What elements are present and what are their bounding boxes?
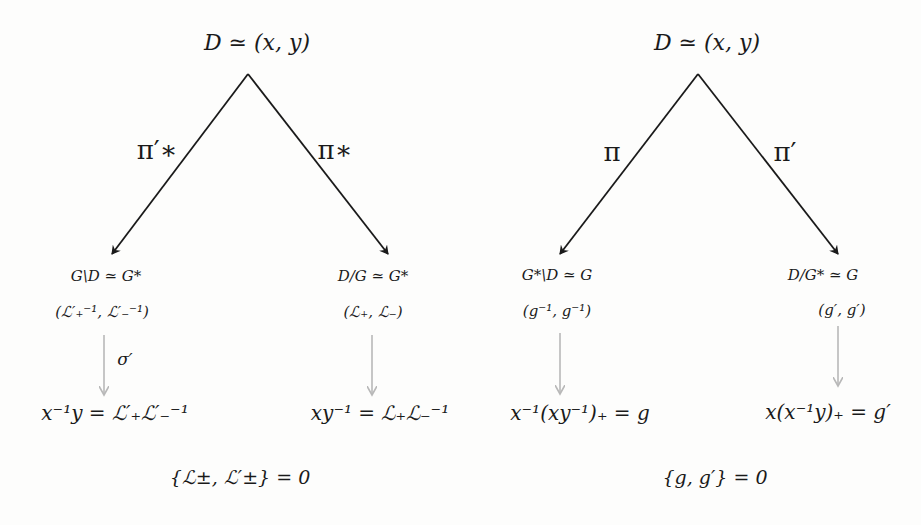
sigma-prime-label: σ′ [117,351,132,368]
right-left-node-quotient: G*\D ≃ G [522,268,593,283]
left-node-pair: (ℒ′₊⁻¹, ℒ′₋⁻¹) [55,305,149,320]
right-node-pair: (ℒ₊, ℒ₋) [343,305,402,320]
left-arrow-label-pi-prime-star: π′∗ [137,137,178,163]
arrow-layer [0,0,921,525]
left-pi-prime-star-arrow [112,74,248,254]
left-top-node: D ≃ (x, y) [204,32,310,54]
right-pi-arrow [560,74,698,254]
left-result-equation: x⁻¹y = ℒ′₊ℒ′₋⁻¹ [41,403,188,423]
right-right-result-equation: x(x⁻¹y)₊ = g′ [765,402,890,422]
right-poisson-bracket: {g, g′} = 0 [663,468,768,487]
right-arrow-label-pi-prime: π′ [774,139,797,165]
right-right-node-quotient: D/G* ≃ G [788,268,859,283]
right-node-quotient: D/G ≃ G* [338,269,409,284]
right-left-result-equation: x⁻¹(xy⁻¹)₊ = g [510,403,649,423]
right-top-node: D ≃ (x, y) [654,32,760,54]
right-right-node-pair: (g′, g′) [818,303,865,318]
left-poisson-bracket: {ℒ±, ℒ′±} = 0 [170,468,311,487]
left-node-quotient: G\D ≃ G* [71,269,142,284]
right-arrow-label-pi-star: π∗ [318,137,353,163]
right-pi-prime-arrow [698,74,838,254]
right-result-equation: xy⁻¹ = ℒ₊ℒ₋⁻¹ [311,403,449,423]
right-left-node-pair: (g⁻¹, g⁻¹) [523,304,591,319]
right-arrow-label-pi: π [603,139,620,165]
